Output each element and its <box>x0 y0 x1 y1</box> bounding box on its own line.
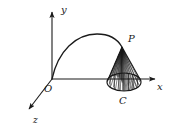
point-p-label: P <box>127 33 135 44</box>
z-axis-label: z <box>32 115 38 125</box>
curve-c-label: C <box>119 95 127 106</box>
cone-group <box>107 47 141 91</box>
origin-label: O <box>44 83 52 94</box>
math-figure: y x z O P C <box>0 0 171 131</box>
figure-canvas: y x z O P C <box>0 0 171 131</box>
x-axis-label: x <box>157 81 163 92</box>
y-axis-label: y <box>60 4 67 15</box>
axes-group <box>29 12 155 109</box>
